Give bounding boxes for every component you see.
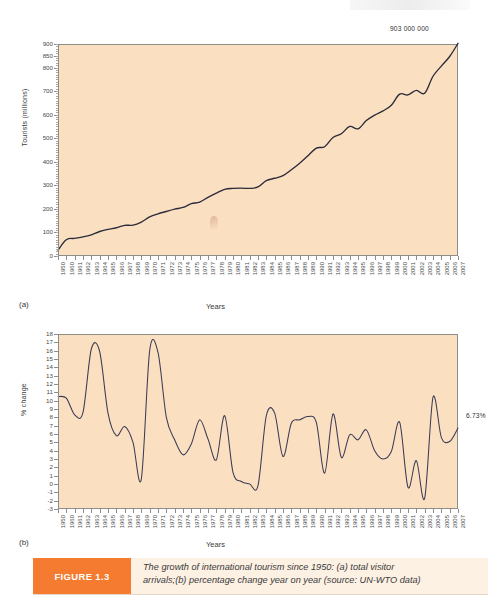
y-tick-label: 400 — [43, 159, 53, 165]
figure-caption: FIGURE 1.3 The growth of international t… — [33, 558, 488, 594]
x-tick-label: 1985 — [277, 515, 283, 528]
series-line-total-arrivals — [58, 44, 458, 256]
x-tick-label: 1981 — [244, 515, 250, 528]
x-tick-label: 2001 — [410, 262, 416, 275]
x-tick — [308, 509, 309, 513]
x-tick — [316, 256, 317, 260]
x-tick-label: 1994 — [352, 262, 358, 275]
x-tick-label: 1995 — [360, 515, 366, 528]
x-tick-label: 1984 — [269, 262, 275, 275]
x-tick — [416, 256, 417, 260]
x-tick — [66, 509, 67, 513]
x-tick-label: 1970 — [152, 262, 158, 275]
x-tick — [158, 509, 159, 513]
x-tick — [133, 256, 134, 260]
y-tick-label: 15 — [46, 356, 53, 362]
x-tick — [258, 256, 259, 260]
x-tick-label: 1987 — [294, 515, 300, 528]
x-tick-label: 1980 — [235, 262, 241, 275]
x-tick-label: 1993 — [344, 262, 350, 275]
x-tick — [66, 256, 67, 260]
y-tick-label: 800 — [43, 64, 53, 70]
x-tick-label: 2004 — [435, 262, 441, 275]
x-tick-label: 1992 — [335, 262, 341, 275]
y-tick — [54, 509, 58, 510]
x-tick-label: 2000 — [402, 515, 408, 528]
x-tick — [125, 256, 126, 260]
x-tick — [150, 256, 151, 260]
x-tick — [233, 509, 234, 513]
x-tick-label: 1982 — [252, 262, 258, 275]
y-tick-label: 600 — [43, 112, 53, 118]
y-tick-label: 0 — [50, 481, 53, 487]
y-tick-label: 9 — [50, 406, 53, 412]
y-tick-label: 17 — [46, 339, 53, 345]
x-tick-label: 1973 — [177, 262, 183, 275]
x-tick — [241, 256, 242, 260]
x-tick — [250, 509, 251, 513]
x-tick — [383, 256, 384, 260]
x-tick — [258, 509, 259, 513]
x-tick — [91, 256, 92, 260]
y-tick-label: 14 — [46, 364, 53, 370]
x-tick — [216, 509, 217, 513]
y-tick-label: 850 — [43, 53, 53, 59]
y-tick-label: -3 — [47, 506, 53, 512]
x-tick-label: 1963 — [94, 515, 100, 528]
x-tick — [325, 509, 326, 513]
y-axis-title-b: % change — [20, 355, 27, 445]
x-tick-label: 2002 — [419, 515, 425, 528]
x-tick-label: 2007 — [460, 515, 466, 528]
x-tick-label: 1960 — [69, 262, 75, 275]
y-axis-line-a — [58, 44, 59, 256]
x-tick-label: 2005 — [444, 262, 450, 275]
x-tick-label: 1978 — [219, 515, 225, 528]
y-tick-label: 900 — [43, 41, 53, 47]
x-tick — [383, 509, 384, 513]
panel-letter-b: (b) — [19, 538, 29, 547]
x-tick — [250, 256, 251, 260]
y-tick-label: 200 — [43, 206, 53, 212]
x-tick — [366, 509, 367, 513]
x-tick — [116, 509, 117, 513]
x-tick — [141, 256, 142, 260]
x-tick-row-b — [58, 509, 458, 513]
x-tick-label: 1990 — [319, 262, 325, 275]
x-tick-label: 1994 — [352, 515, 358, 528]
x-tick-label: 1995 — [360, 262, 366, 275]
x-tick — [183, 509, 184, 513]
x-tick — [216, 256, 217, 260]
x-tick-label: 1988 — [302, 515, 308, 528]
x-tick — [183, 256, 184, 260]
x-tick — [408, 256, 409, 260]
x-tick-label: 1982 — [252, 515, 258, 528]
x-tick — [200, 256, 201, 260]
x-tick — [116, 256, 117, 260]
x-tick — [425, 509, 426, 513]
y-tick-label: 0 — [50, 253, 53, 259]
x-tick — [100, 509, 101, 513]
x-tick — [83, 509, 84, 513]
x-tick — [200, 509, 201, 513]
x-tick-label: 1992 — [335, 515, 341, 528]
x-tick-label: 1974 — [185, 515, 191, 528]
x-tick-label: 1998 — [385, 515, 391, 528]
annotation-903-million: 903 000 000 — [390, 25, 429, 32]
x-tick-label: 1972 — [169, 515, 175, 528]
x-tick — [233, 256, 234, 260]
y-tick-label: 10 — [46, 398, 53, 404]
x-tick — [333, 256, 334, 260]
x-tick-label: 1983 — [260, 262, 266, 275]
x-tick-label: 1965 — [110, 262, 116, 275]
x-tick-label: 2007 — [460, 262, 466, 275]
x-tick — [433, 256, 434, 260]
x-tick-label: 1961 — [77, 515, 83, 528]
y-tick-label: -2 — [47, 498, 53, 504]
line-percentage-change — [58, 339, 458, 499]
x-tick — [191, 256, 192, 260]
x-tick-label: 1996 — [369, 262, 375, 275]
x-tick-label: 1976 — [202, 515, 208, 528]
x-tick — [358, 256, 359, 260]
y-tick-label: 3 — [50, 456, 53, 462]
x-tick — [158, 256, 159, 260]
